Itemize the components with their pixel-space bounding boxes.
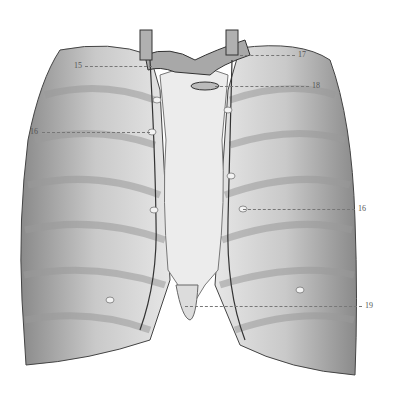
leader-line-15 xyxy=(85,66,152,67)
rib-cage-drawing xyxy=(0,0,393,394)
label-17: 17 xyxy=(298,51,306,59)
label-19: 19 xyxy=(365,302,373,310)
label-18: 18 xyxy=(312,82,320,90)
leader-line-16-right xyxy=(243,209,355,210)
thorax-illustration: 15 16 17 18 16 19 xyxy=(0,0,393,394)
leader-line-16-left xyxy=(42,132,150,133)
leader-line-19 xyxy=(185,306,362,307)
label-16-right: 16 xyxy=(358,205,366,213)
leader-line-17 xyxy=(240,55,295,56)
label-15: 15 xyxy=(74,62,82,70)
leader-line-18 xyxy=(215,86,309,87)
label-16-left: 16 xyxy=(30,128,38,136)
